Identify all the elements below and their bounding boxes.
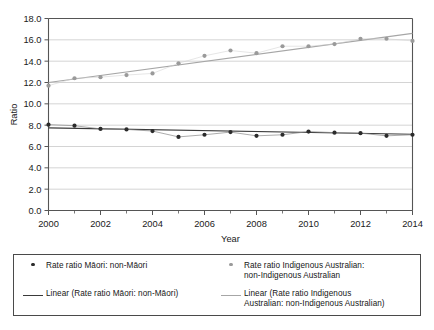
data-point	[410, 133, 414, 137]
dot-marker-dark-icon	[20, 261, 46, 266]
data-point	[254, 51, 258, 55]
y-tick-label-2.0: 2.0	[29, 185, 42, 195]
x-tick-label-2010: 2010	[298, 219, 319, 229]
y-tick-label-12.0: 12.0	[23, 78, 41, 88]
y-axis-title: Ratio	[9, 104, 19, 126]
y-tick-label-6.0: 6.0	[29, 142, 42, 152]
x-tick-label-2012: 2012	[350, 219, 371, 229]
y-tick-label-0.0: 0.0	[29, 206, 42, 216]
data-point	[332, 42, 336, 46]
y-axis-line-group	[49, 19, 413, 211]
data-point	[72, 76, 76, 80]
data-point	[228, 130, 232, 134]
data-point	[72, 124, 76, 128]
data-point	[124, 127, 128, 131]
legend-label-indigenous-markers: Rate ratio Indigenous Australian: non-In…	[244, 261, 364, 281]
legend-label-maori-markers: Rate ratio Māori: non-Māori	[46, 261, 147, 271]
series-connector-indigenous	[49, 39, 413, 86]
data-point	[332, 131, 336, 135]
legend-item-maori-markers: Rate ratio Māori: non-Māori	[20, 261, 216, 271]
x-tick-group	[49, 211, 413, 216]
data-point	[228, 48, 232, 52]
y-tick-labels: 0.02.04.06.08.010.012.014.016.018.0	[23, 14, 41, 216]
data-point	[124, 73, 128, 77]
y-tick-label-16.0: 16.0	[23, 35, 41, 45]
y-tick-label-18.0: 18.0	[23, 14, 41, 24]
x-tick-label-2014: 2014	[402, 219, 423, 229]
chart-figure: 0.02.04.06.08.010.012.014.016.018.0 2000…	[0, 0, 434, 330]
data-point	[202, 133, 206, 137]
data-point	[150, 129, 154, 133]
data-point	[254, 134, 258, 138]
ratio-trend-chart: 0.02.04.06.08.010.012.014.016.018.0 2000…	[0, 0, 434, 248]
data-point	[306, 129, 310, 133]
chart-legend: Rate ratio Māori: non-Māori Rate ratio I…	[13, 254, 421, 316]
data-point	[176, 61, 180, 65]
legend-grid: Rate ratio Māori: non-Māori Rate ratio I…	[14, 255, 420, 315]
x-tick-label-2008: 2008	[246, 219, 267, 229]
dot-marker-grey-icon	[218, 261, 244, 266]
data-point	[358, 37, 362, 41]
legend-label-maori-trendline: Linear (Rate ratio Māori: non-Māori)	[46, 289, 178, 299]
data-point	[384, 37, 388, 41]
y-tick-label-10.0: 10.0	[23, 99, 41, 109]
x-tick-label-2004: 2004	[142, 219, 163, 229]
series-markers-group	[46, 37, 414, 139]
x-tick-label-2002: 2002	[90, 219, 111, 229]
data-point	[280, 44, 284, 48]
data-point	[150, 71, 154, 75]
x-axis-title: Year	[221, 234, 240, 244]
x-tick-label-2006: 2006	[194, 219, 215, 229]
y-tick-label-8.0: 8.0	[29, 121, 42, 131]
line-marker-dark-icon	[20, 289, 46, 296]
data-point	[176, 135, 180, 139]
x-tick-label-2000: 2000	[38, 219, 59, 229]
data-point	[46, 123, 50, 127]
data-point	[410, 39, 414, 43]
data-point	[280, 133, 284, 137]
data-point	[98, 75, 102, 79]
plot-container: 0.02.04.06.08.010.012.014.016.018.0 2000…	[0, 0, 434, 248]
data-point	[358, 131, 362, 135]
data-point	[46, 84, 50, 88]
line-marker-grey-icon	[218, 289, 244, 296]
x-tick-labels: 20002002200420062008201020122014	[38, 219, 423, 229]
gridlines-group	[49, 19, 413, 211]
y-tick-label-4.0: 4.0	[29, 163, 42, 173]
data-point	[98, 127, 102, 131]
data-point	[202, 54, 206, 58]
legend-item-indigenous-markers: Rate ratio Indigenous Australian: non-In…	[218, 261, 420, 281]
legend-item-maori-trendline: Linear (Rate ratio Māori: non-Māori)	[20, 289, 216, 299]
y-tick-label-14.0: 14.0	[23, 57, 41, 67]
trendline	[49, 33, 413, 82]
data-point	[384, 134, 388, 138]
data-point	[306, 44, 310, 48]
y-tick-group	[45, 19, 49, 211]
legend-label-indigenous-trendline: Linear (Rate ratio Indigenous Australian…	[244, 289, 385, 309]
legend-item-indigenous-trendline: Linear (Rate ratio Indigenous Australian…	[218, 289, 420, 309]
